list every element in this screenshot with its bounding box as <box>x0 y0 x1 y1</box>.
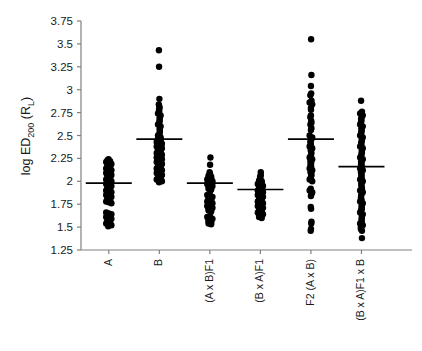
y-tick-label: 2 <box>67 175 73 187</box>
x-category-label: A <box>102 259 114 266</box>
y-tick-label: 2.75 <box>51 107 73 119</box>
scatter-plot-svg: 3.753.53.2532.752.52.2521.751.51.25 AB(A… <box>0 0 422 351</box>
data-point <box>207 154 213 160</box>
x-category-label: (B x A)F1 <box>253 259 265 303</box>
data-point <box>156 179 162 185</box>
data-point <box>308 36 314 42</box>
x-axis-ticks <box>109 250 362 254</box>
y-tick-label: 2.5 <box>57 130 73 142</box>
y-tick-label: 3 <box>67 84 73 96</box>
x-category-label-text: (B x A)F1 <box>253 259 265 303</box>
data-point <box>156 47 162 53</box>
x-category-label: F2 (A x B) <box>304 259 316 306</box>
y-tick-label: 1.75 <box>51 198 73 210</box>
data-point <box>308 220 314 226</box>
y-axis-title: log ED200 (RL) <box>19 97 36 175</box>
data-point <box>156 64 162 70</box>
data-point <box>105 223 111 229</box>
x-category-label: B <box>152 259 164 266</box>
data-point <box>307 92 313 98</box>
data-point <box>308 107 314 113</box>
chart-figure: 3.753.53.2532.752.52.2521.751.51.25 AB(A… <box>0 0 422 351</box>
svg-text:log ED200 (RL): log ED200 (RL) <box>19 97 36 175</box>
data-point <box>258 215 264 221</box>
y-tick-label: 1.25 <box>51 244 73 256</box>
x-category-label: (B x A)F1 x B <box>354 259 366 321</box>
x-category-label-text: B <box>152 259 164 266</box>
x-axis-category-labels: AB(A x B)F1(B x A)F1F2 (A x B)(B x A)F1 … <box>102 259 367 321</box>
x-category-label-text: A <box>102 259 114 266</box>
data-point <box>359 228 365 234</box>
data-point <box>308 206 314 212</box>
data-point <box>308 127 314 133</box>
data-point <box>308 193 314 199</box>
significance-asterisk: * <box>106 152 112 169</box>
data-point <box>308 228 314 234</box>
y-tick-label: 3.25 <box>51 61 73 73</box>
data-point <box>156 96 162 102</box>
data-point <box>207 162 213 168</box>
x-category-label-text: F2 (A x B) <box>304 259 316 306</box>
y-axis-title-sub1: 200 <box>26 123 36 138</box>
data-point <box>208 221 214 227</box>
x-category-label-text: (B x A)F1 x B <box>354 259 366 321</box>
y-axis-title-mid: (R <box>19 106 33 123</box>
mean-lines-group <box>86 139 385 189</box>
y-axis-title-suffix: ) <box>19 97 33 101</box>
data-point <box>358 97 364 103</box>
data-point <box>308 72 314 78</box>
y-tick-label: 3.5 <box>57 38 73 50</box>
y-tick-label: 1.5 <box>57 221 73 233</box>
x-category-label: (A x B)F1 <box>203 259 215 303</box>
data-point <box>309 178 315 184</box>
y-tick-label: 3.75 <box>51 15 73 27</box>
annotations-group: * <box>106 152 112 169</box>
data-point <box>308 83 314 89</box>
data-point <box>359 235 365 241</box>
x-category-label-text: (A x B)F1 <box>203 259 215 303</box>
y-axis-tick-labels: 3.753.53.2532.752.52.2521.751.51.25 <box>51 15 73 256</box>
y-axis-title-prefix: log ED <box>19 138 33 176</box>
y-tick-label: 2.25 <box>51 152 73 164</box>
data-point <box>108 200 114 206</box>
